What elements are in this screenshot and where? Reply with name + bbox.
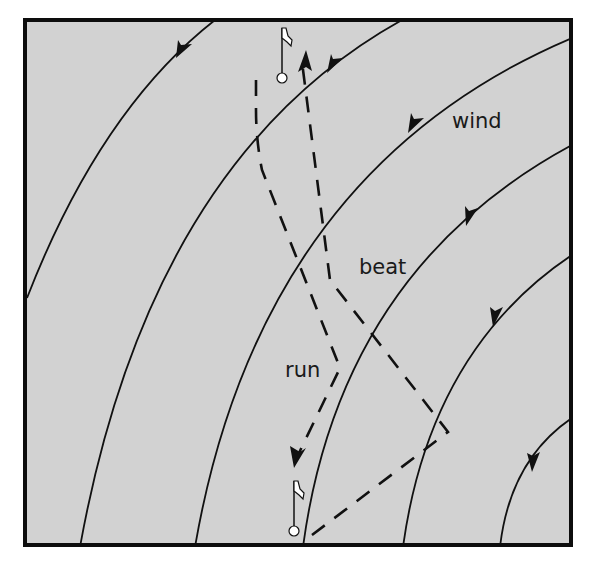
bottom-mark-buoy-icon (289, 526, 299, 536)
beat-label: beat (359, 255, 406, 279)
diagram-background (25, 20, 571, 545)
wind-label: wind (452, 109, 502, 133)
top-mark-buoy-icon (277, 73, 287, 83)
run-label: run (285, 358, 320, 382)
sailing-course-diagram: wind beat run (0, 0, 595, 561)
